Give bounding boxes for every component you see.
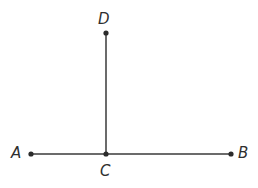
point-b xyxy=(228,151,233,156)
geometry-canvas xyxy=(0,0,258,188)
point-d xyxy=(103,30,108,35)
point-label-d: D xyxy=(98,12,110,27)
point-c xyxy=(103,151,108,156)
geometry-figure: A B C D xyxy=(0,0,258,188)
point-a xyxy=(28,151,33,156)
point-label-c: C xyxy=(100,164,110,179)
point-label-b: B xyxy=(238,146,248,161)
point-label-a: A xyxy=(11,146,21,161)
